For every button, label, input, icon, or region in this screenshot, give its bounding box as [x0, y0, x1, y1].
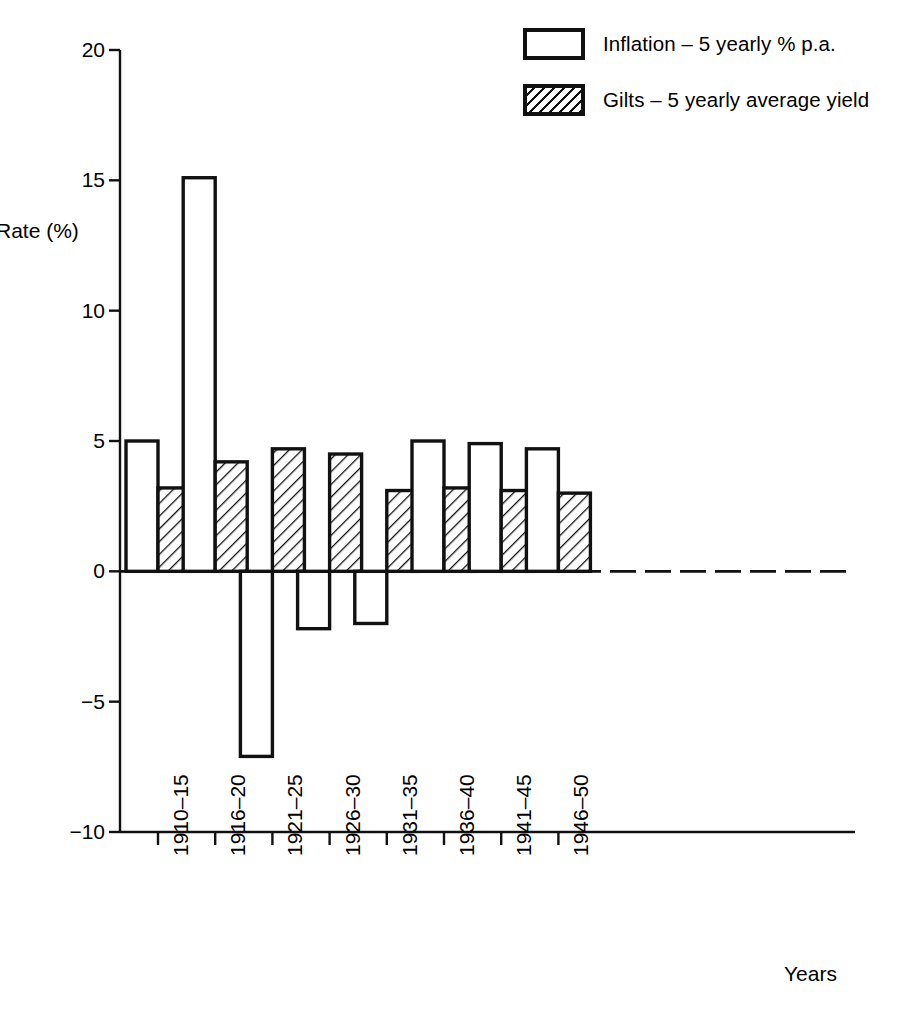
bar-gilts	[272, 449, 304, 572]
x-tick-label: 1916–20	[226, 774, 250, 856]
y-tick-label: 5	[40, 429, 105, 453]
bar-inflation	[469, 444, 501, 572]
bar-inflation	[126, 441, 158, 571]
y-tick-label: 10	[40, 299, 105, 323]
bar-inflation	[355, 571, 387, 623]
bar-inflation	[412, 441, 444, 571]
y-tick-label: −5	[40, 690, 105, 714]
x-tick-label: 1941–45	[512, 774, 536, 856]
x-tick-label: 1926–30	[341, 774, 365, 856]
bar-inflation	[183, 178, 215, 572]
bar-gilts	[330, 454, 362, 571]
y-tick-label: 0	[40, 559, 105, 583]
y-tick-label: 15	[40, 168, 105, 192]
x-tick-label: 1936–40	[455, 774, 479, 856]
bar-inflation	[240, 571, 272, 756]
x-tick-label: 1921–25	[283, 774, 307, 856]
bar-gilts	[215, 462, 247, 571]
x-tick-label: 1946–50	[569, 774, 593, 856]
y-tick-label: −10	[40, 820, 105, 844]
y-tick-label: 20	[40, 38, 105, 62]
bar-gilts	[558, 493, 590, 571]
x-tick-label: 1931–35	[398, 774, 422, 856]
bar-inflation	[526, 449, 558, 572]
bars-layer	[126, 178, 590, 757]
plot-area	[0, 0, 912, 1015]
bar-inflation	[298, 571, 330, 628]
bar-chart: Inflation – 5 yearly % p.a. Gilts – 5 ye…	[0, 0, 912, 1015]
x-tick-label: 1910–15	[169, 774, 193, 856]
